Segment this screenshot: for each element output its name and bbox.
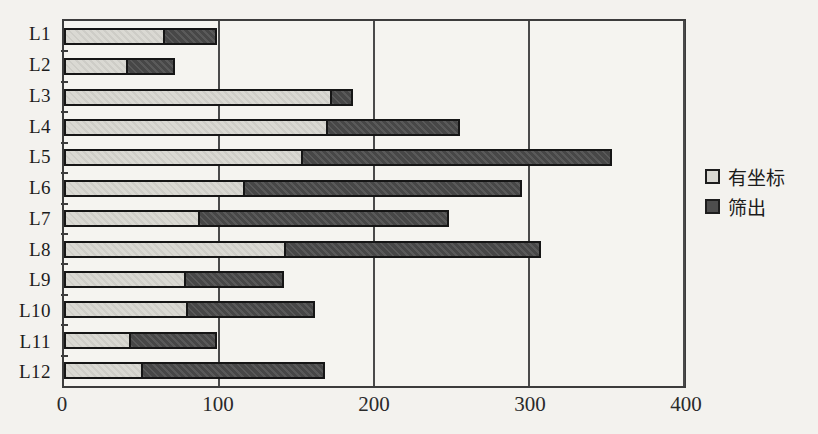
bar-segment-L8-youzuobiao [64,241,286,258]
x-axis-labels: 0100200300400 [62,392,686,420]
x-tick-label-200: 200 [358,392,390,417]
bar-segment-L7-shaichu [198,210,449,227]
category-label-L7: L7 [0,203,58,234]
bar-segment-L12-youzuobiao [64,362,143,379]
y-axis-labels: L1L2L3L4L5L6L7L8L9L10L11L12 [0,19,58,388]
x-tick-label-100: 100 [202,392,234,417]
bar-segment-L8-shaichu [284,241,541,258]
category-label-L3: L3 [0,80,58,111]
category-label-L9: L9 [0,265,58,296]
bar-segment-L3-youzuobiao [64,89,332,106]
bar-segment-L12-shaichu [141,362,325,379]
bar-segment-L3-shaichu [330,89,353,106]
x-tick-label-300: 300 [514,392,546,417]
category-label-L12: L12 [0,357,58,388]
bar-row-L12 [64,355,684,385]
bar-segment-L9-youzuobiao [64,271,186,288]
legend: 有坐标 筛出 [705,166,785,226]
bar-row-L10 [64,295,684,325]
bar-segment-L2-youzuobiao [64,58,128,75]
x-tick-label-0: 0 [57,392,68,417]
bar-segment-L10-shaichu [186,301,315,318]
category-label-L10: L10 [0,296,58,327]
bar-row-L9 [64,264,684,294]
bar-segment-L6-youzuobiao [64,180,245,197]
bar-segment-L11-youzuobiao [64,332,131,349]
bar-segment-L4-youzuobiao [64,119,328,136]
bar-segment-L6-shaichu [243,180,522,197]
bar-segment-L7-youzuobiao [64,210,200,227]
legend-label-shaichu: 筛出 [728,193,766,220]
bar-segment-L2-shaichu [126,58,176,75]
bar-row-L7 [64,203,684,233]
bar-segment-L9-shaichu [184,271,283,288]
plot-area [62,19,686,388]
bar-row-L1 [64,21,684,51]
x-tick-label-400: 400 [670,392,702,417]
category-label-L11: L11 [0,326,58,357]
chart-figure: L1L2L3L4L5L6L7L8L9L10L11L12 010020030040… [0,0,818,434]
category-label-L2: L2 [0,50,58,81]
bar-segment-L5-youzuobiao [64,149,303,166]
category-label-L1: L1 [0,19,58,50]
legend-label-youzuobiao: 有坐标 [728,163,785,190]
category-label-L6: L6 [0,173,58,204]
bar-row-L4 [64,112,684,142]
legend-swatch-dark-icon [705,199,720,214]
bar-segment-L1-shaichu [163,28,217,45]
legend-item-youzuobiao: 有坐标 [705,166,785,187]
bar-row-L8 [64,234,684,264]
bar-segment-L10-youzuobiao [64,301,188,318]
bar-row-L6 [64,173,684,203]
category-label-L5: L5 [0,142,58,173]
category-label-L8: L8 [0,234,58,265]
bar-segment-L1-youzuobiao [64,28,165,45]
bar-segment-L11-shaichu [129,332,217,349]
legend-swatch-light-icon [705,169,720,184]
category-label-L4: L4 [0,111,58,142]
legend-item-shaichu: 筛出 [705,196,785,217]
bar-segment-L5-shaichu [301,149,613,166]
bar-segment-L4-shaichu [326,119,461,136]
bar-row-L2 [64,51,684,81]
bar-row-L3 [64,82,684,112]
bar-row-L11 [64,325,684,355]
bar-row-L5 [64,143,684,173]
